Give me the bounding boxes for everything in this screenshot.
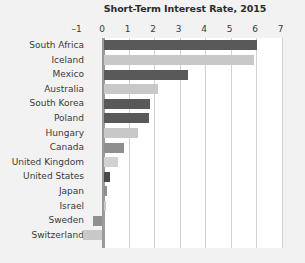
plot-area	[102, 38, 282, 248]
bar	[104, 157, 118, 167]
category-label: South Korea	[29, 96, 84, 111]
x-tick-4: 4	[201, 24, 207, 34]
bars-positive	[103, 38, 282, 248]
bar	[104, 128, 138, 138]
category-label: Japan	[59, 184, 84, 199]
bar	[104, 113, 149, 123]
y-axis-category-labels: South AfricaIcelandMexicoAustraliaSouth …	[0, 38, 88, 248]
x-tick-5: 5	[227, 24, 233, 34]
category-label: Sweden	[48, 213, 84, 228]
x-tick-7: 7	[278, 24, 284, 34]
x-tick-6: 6	[252, 24, 258, 34]
bar	[104, 172, 110, 182]
category-label: Israel	[59, 199, 84, 214]
bar-chart: Short-Term Interest Rate, 2015 –10123456…	[0, 0, 305, 263]
category-label: Iceland	[51, 53, 84, 68]
bar	[104, 143, 124, 153]
category-label: United Kingdom	[12, 155, 84, 170]
bar	[104, 186, 107, 196]
gridline-7	[282, 38, 283, 248]
bar	[104, 40, 257, 50]
category-label: United States	[23, 169, 84, 184]
bar	[104, 84, 158, 94]
category-label: Canada	[50, 140, 84, 155]
category-label: South Africa	[29, 38, 84, 53]
category-label: Poland	[54, 111, 84, 126]
bar	[104, 201, 106, 211]
category-label: Mexico	[53, 67, 84, 82]
category-label: Australia	[44, 82, 84, 97]
category-label: Switzerland	[32, 228, 85, 243]
x-axis-tick-labels: –101234567	[0, 24, 305, 38]
bar	[104, 99, 150, 109]
chart-title: Short-Term Interest Rate, 2015	[95, 3, 275, 14]
bar	[104, 70, 188, 80]
x-tick-2: 2	[150, 24, 156, 34]
x-tick-0: 0	[99, 24, 105, 34]
category-label: Hungary	[46, 126, 84, 141]
x-tick-1: 1	[125, 24, 131, 34]
bar	[93, 216, 102, 226]
x-tick-3: 3	[176, 24, 182, 34]
x-tick-neg1: –1	[71, 24, 81, 34]
bar	[104, 55, 254, 65]
